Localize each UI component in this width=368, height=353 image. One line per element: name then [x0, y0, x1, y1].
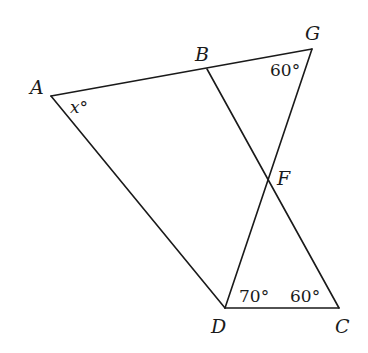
point-label-d: D	[210, 315, 226, 337]
diagram-canvas: A B G F D C x° 60° 70° 60°	[0, 0, 368, 353]
angle-label-d: 70°	[239, 286, 269, 306]
angle-label-c: 60°	[290, 286, 320, 306]
point-label-f: F	[276, 167, 291, 189]
geometry-diagram: A B G F D C x° 60° 70° 60°	[0, 0, 368, 353]
angle-label-a: x°	[70, 97, 88, 117]
segment-ad	[51, 96, 225, 308]
angle-label-g: 60°	[270, 60, 300, 80]
point-label-b: B	[194, 43, 209, 65]
segments	[51, 49, 339, 308]
point-label-a: A	[28, 76, 44, 98]
point-label-c: C	[335, 315, 350, 337]
segment-bc	[207, 69, 339, 308]
segment-dg	[225, 49, 312, 308]
point-label-g: G	[305, 22, 320, 44]
